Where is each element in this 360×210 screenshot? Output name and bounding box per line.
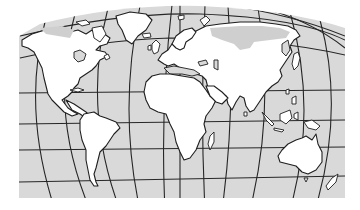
- sri-lanka: [244, 112, 247, 116]
- iceland: [142, 33, 151, 38]
- world-map: [0, 0, 360, 210]
- taiwan: [286, 89, 289, 94]
- sulawesi: [294, 112, 298, 120]
- ireland: [148, 45, 151, 50]
- svalbard: [178, 15, 184, 20]
- philippines: [292, 96, 296, 104]
- caspian-sea: [214, 60, 218, 70]
